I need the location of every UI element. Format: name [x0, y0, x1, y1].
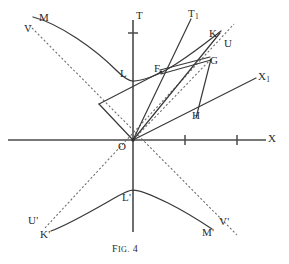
point-label-G: G [210, 55, 218, 66]
point-label-U-prime: U' [28, 215, 38, 226]
point-label-K-prime: K' [40, 229, 50, 240]
figure-drawing-canvas [0, 0, 289, 264]
axis-label-T: T [136, 10, 143, 21]
point-label-O: O [118, 141, 126, 152]
point-label-V-prime: V' [219, 216, 229, 227]
point-label-V: V [24, 23, 32, 34]
point-label-L: L [120, 68, 127, 79]
figure-caption-text: FIG. 4 [112, 243, 138, 254]
axis-label-X1: X1 [258, 71, 270, 82]
point-label-F: F [154, 63, 160, 74]
axis-label-T1: T1 [188, 8, 199, 19]
point-label-H: H [192, 110, 200, 121]
figure-4-container: T T1 X X1 M V L F K U G H O L' U' K' M' … [0, 0, 289, 264]
upper-hyperbola-branch [33, 17, 221, 81]
figure-caption: FIG. 4 [112, 243, 138, 254]
point-label-M-prime: M' [202, 227, 214, 238]
axis-label-X: X [268, 133, 276, 144]
point-label-L-prime: L' [122, 192, 131, 203]
point-label-K: K [209, 28, 217, 39]
segment-left-vertex-to-origin [99, 104, 133, 140]
origin-point-marker [131, 138, 134, 141]
segment-left-vertex-to-F [99, 72, 161, 104]
point-label-U: U [224, 38, 232, 49]
point-label-M: M [39, 12, 49, 23]
